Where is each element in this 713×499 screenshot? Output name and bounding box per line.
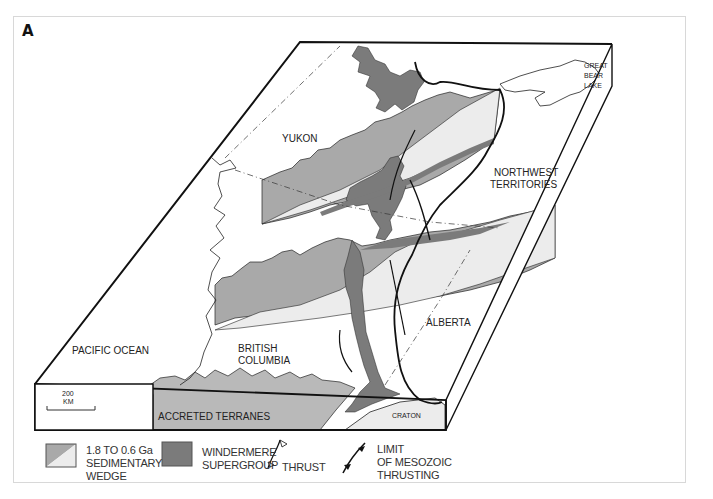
legend-windermere-line2: SUPERGROUP bbox=[202, 459, 278, 472]
legend-thrust-label: THRUST bbox=[282, 461, 325, 474]
label-great-bear-2: BEAR bbox=[584, 72, 603, 79]
scale-bar-unit: KM bbox=[63, 398, 74, 405]
legend-swatch-windermere bbox=[162, 442, 192, 466]
block-front-left-panel bbox=[35, 384, 153, 430]
legend-wedge-line2: SEDIMENTARY bbox=[86, 457, 162, 470]
block-diagram: 200 KM YUKON NORTHWEST TERRITORIES GREAT… bbox=[0, 0, 713, 499]
label-pacific-ocean: PACIFIC OCEAN bbox=[72, 345, 149, 356]
label-nwt-1: NORTHWEST bbox=[494, 167, 558, 178]
legend-thrust-text: THRUST bbox=[282, 461, 325, 474]
legend-wedge-line3: WEDGE bbox=[86, 470, 162, 483]
legend-windermere-text: WINDERMERE SUPERGROUP bbox=[202, 446, 278, 472]
legend-swatch-sedimentary-wedge bbox=[46, 444, 76, 467]
legend-wedge-line1: 1.8 TO 0.6 Ga bbox=[86, 444, 162, 457]
label-accreted-terranes: ACCRETED TERRANES bbox=[158, 411, 270, 422]
label-nwt-2: TERRITORIES bbox=[490, 179, 557, 190]
legend-mesozoic-line1: LIMIT bbox=[377, 443, 452, 456]
mesozoic-thrust-limit-icon bbox=[343, 443, 365, 473]
scale-bar-value: 200 bbox=[62, 390, 74, 397]
label-bc-1: BRITISH bbox=[238, 343, 277, 354]
label-craton: CRATON bbox=[392, 412, 421, 419]
legend-sedimentary-wedge-text: 1.8 TO 0.6 Ga SEDIMENTARY WEDGE bbox=[86, 444, 162, 483]
label-alberta: ALBERTA bbox=[426, 317, 471, 328]
label-bc-2: COLUMBIA bbox=[238, 355, 291, 366]
label-yukon: YUKON bbox=[282, 133, 318, 144]
legend-mesozoic-limit-text: LIMIT OF MESOZOIC THRUSTING bbox=[377, 443, 452, 482]
legend-mesozoic-line2: OF MESOZOIC bbox=[377, 456, 452, 469]
legend-windermere-line1: WINDERMERE bbox=[202, 446, 278, 459]
label-great-bear-3: LAKE bbox=[584, 82, 602, 89]
label-great-bear-1: GREAT bbox=[584, 62, 608, 69]
legend-mesozoic-line3: THRUSTING bbox=[377, 469, 452, 482]
